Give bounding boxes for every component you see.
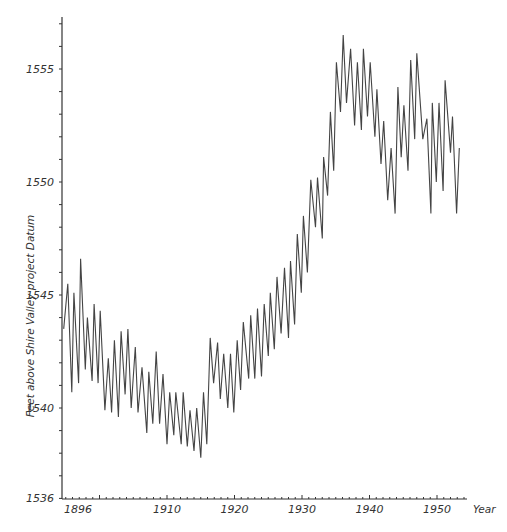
x-tick-label: 1940 bbox=[356, 503, 384, 516]
x-tick-label: 1930 bbox=[288, 503, 316, 516]
y-axis: 15361540154515501555 Feet above Shire Va… bbox=[24, 17, 62, 505]
y-tick-label: 1550 bbox=[26, 176, 54, 189]
y-tick-label: 1555 bbox=[26, 63, 54, 76]
x-tick-label: 1920 bbox=[221, 503, 249, 516]
lake-level-chart: 15361540154515501555 Feet above Shire Va… bbox=[0, 0, 507, 532]
lake-level-line bbox=[64, 35, 460, 458]
y-tick-label: 1536 bbox=[26, 492, 54, 505]
x-tick-label: 1896 bbox=[64, 503, 92, 516]
x-axis-tick-labels: 189619101920193019401950 bbox=[64, 503, 451, 516]
x-axis-title: Year bbox=[473, 503, 496, 515]
x-tick-label: 1910 bbox=[153, 503, 181, 516]
y-axis-title: Feet above Shire Valley project Datum bbox=[24, 215, 36, 418]
x-tick-label: 1950 bbox=[423, 503, 451, 516]
x-axis: 189619101920193019401950 Year bbox=[62, 495, 496, 516]
